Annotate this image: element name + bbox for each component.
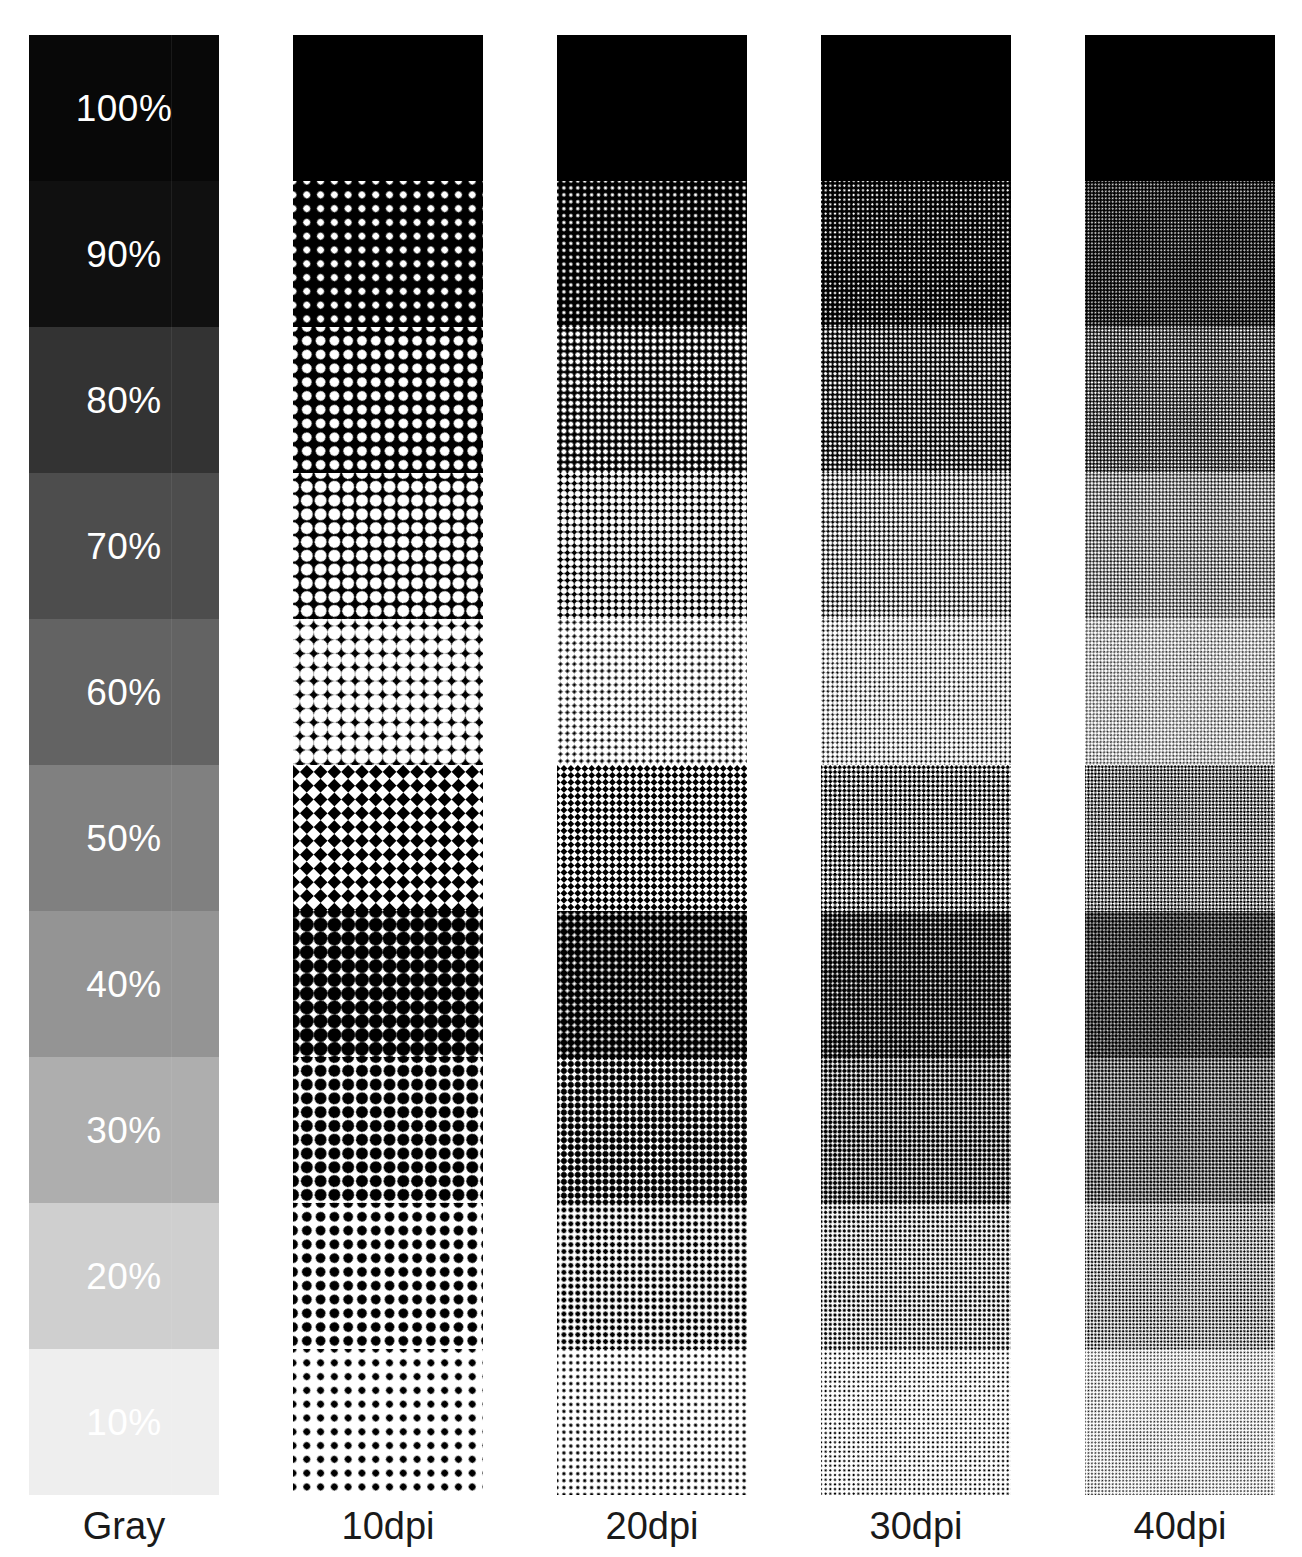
halftone-screen <box>293 181 483 327</box>
gray-band-60: 60% <box>29 619 219 765</box>
halftone-screen <box>1085 911 1275 1057</box>
halftone-band-30-10 <box>821 1349 1011 1495</box>
halftone-band-30-40 <box>821 911 1011 1057</box>
tone-column-dpi20 <box>557 35 747 1495</box>
halftone-screen <box>821 1057 1011 1203</box>
tone-label-100: 100% <box>29 90 219 127</box>
tone-label-20: 20% <box>29 1258 219 1295</box>
halftone-band-40-50 <box>1085 765 1275 911</box>
halftone-screen <box>821 1203 1011 1349</box>
tone-label-70: 70% <box>29 528 219 565</box>
gray-band-40: 40% <box>29 911 219 1057</box>
gray-band-90: 90% <box>29 181 219 327</box>
halftone-screen <box>821 765 1011 911</box>
column-caption-dpi30: 30dpi <box>821 1502 1011 1550</box>
halftone-band-40-10 <box>1085 1349 1275 1495</box>
halftone-screen <box>293 473 483 619</box>
halftone-band-40-80 <box>1085 327 1275 473</box>
halftone-screen <box>293 1057 483 1203</box>
halftone-screen <box>1085 327 1275 473</box>
halftone-screen <box>1085 1203 1275 1349</box>
halftone-band-20-50 <box>557 765 747 911</box>
column-caption-dpi40: 40dpi <box>1085 1502 1275 1550</box>
tone-label-60: 60% <box>29 674 219 711</box>
halftone-screen <box>821 1349 1011 1495</box>
halftone-band-40-20 <box>1085 1203 1275 1349</box>
halftone-screen <box>821 327 1011 473</box>
halftone-band-20-40 <box>557 911 747 1057</box>
tone-label-10: 10% <box>29 1404 219 1441</box>
halftone-band-30-60 <box>821 619 1011 765</box>
tone-column-dpi30 <box>821 35 1011 1495</box>
halftone-screen <box>1085 181 1275 327</box>
halftone-screen <box>1085 1057 1275 1203</box>
halftone-band-30-100 <box>821 35 1011 181</box>
halftone-screen <box>557 1349 747 1495</box>
gray-band-30: 30% <box>29 1057 219 1203</box>
halftone-band-30-70 <box>821 473 1011 619</box>
halftone-band-30-20 <box>821 1203 1011 1349</box>
halftone-band-40-30 <box>1085 1057 1275 1203</box>
halftone-band-40-90 <box>1085 181 1275 327</box>
halftone-screen <box>293 619 483 765</box>
halftone-comparison-figure: 100%90%80%70%60%50%40%30%20%10%Gray10dpi… <box>0 0 1302 1557</box>
halftone-band-10-10 <box>293 1349 483 1495</box>
halftone-screen <box>1085 473 1275 619</box>
halftone-screen <box>293 327 483 473</box>
gray-band-20: 20% <box>29 1203 219 1349</box>
halftone-band-40-60 <box>1085 619 1275 765</box>
halftone-band-10-90 <box>293 181 483 327</box>
halftone-screen <box>557 1057 747 1203</box>
tone-label-30: 30% <box>29 1112 219 1149</box>
gray-band-80: 80% <box>29 327 219 473</box>
halftone-screen <box>821 619 1011 765</box>
column-caption-gray: Gray <box>29 1502 219 1550</box>
tone-column-gray: 100%90%80%70%60%50%40%30%20%10% <box>29 35 219 1495</box>
halftone-band-30-50 <box>821 765 1011 911</box>
halftone-band-10-100 <box>293 35 483 181</box>
halftone-band-20-10 <box>557 1349 747 1495</box>
halftone-band-40-40 <box>1085 911 1275 1057</box>
halftone-band-10-80 <box>293 327 483 473</box>
halftone-screen <box>557 327 747 473</box>
halftone-screen <box>1085 765 1275 911</box>
halftone-band-10-20 <box>293 1203 483 1349</box>
halftone-screen <box>557 911 747 1057</box>
halftone-band-40-70 <box>1085 473 1275 619</box>
halftone-band-10-30 <box>293 1057 483 1203</box>
halftone-screen <box>557 181 747 327</box>
halftone-screen <box>821 181 1011 327</box>
tone-label-40: 40% <box>29 966 219 1003</box>
halftone-screen <box>1085 619 1275 765</box>
halftone-band-20-90 <box>557 181 747 327</box>
halftone-band-20-30 <box>557 1057 747 1203</box>
halftone-screen <box>1085 1349 1275 1495</box>
tone-column-dpi40 <box>1085 35 1275 1495</box>
tone-label-50: 50% <box>29 820 219 857</box>
gray-band-100: 100% <box>29 35 219 181</box>
gray-band-50: 50% <box>29 765 219 911</box>
halftone-screen <box>821 473 1011 619</box>
halftone-band-10-40 <box>293 911 483 1057</box>
halftone-screen <box>293 911 483 1057</box>
halftone-screen <box>557 1203 747 1349</box>
tone-column-dpi10 <box>293 35 483 1495</box>
halftone-screen <box>293 1349 483 1495</box>
halftone-screen <box>821 911 1011 1057</box>
halftone-band-20-60 <box>557 619 747 765</box>
halftone-band-30-80 <box>821 327 1011 473</box>
halftone-screen <box>293 765 483 911</box>
halftone-band-20-100 <box>557 35 747 181</box>
column-caption-dpi10: 10dpi <box>293 1502 483 1550</box>
halftone-screen <box>557 473 747 619</box>
halftone-band-10-60 <box>293 619 483 765</box>
halftone-band-20-20 <box>557 1203 747 1349</box>
halftone-band-10-70 <box>293 473 483 619</box>
halftone-screen <box>557 619 747 765</box>
halftone-screen <box>557 765 747 911</box>
halftone-band-30-90 <box>821 181 1011 327</box>
column-caption-dpi20: 20dpi <box>557 1502 747 1550</box>
gray-band-70: 70% <box>29 473 219 619</box>
halftone-band-40-100 <box>1085 35 1275 181</box>
halftone-band-20-80 <box>557 327 747 473</box>
